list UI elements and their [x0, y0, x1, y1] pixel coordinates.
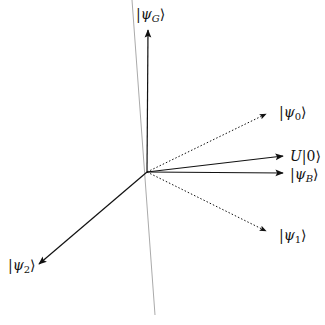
ket-symbol: ψ: [295, 166, 306, 182]
ket-close: ⟩: [160, 6, 165, 22]
vector-psi-b: [147, 172, 283, 173]
ket-symbol: ψ: [284, 227, 295, 243]
label-psi-b: |ψB⟩: [290, 167, 319, 184]
vector-psi-1: [147, 172, 266, 231]
ket-close: ⟩: [313, 166, 318, 182]
ket-close: ⟩: [301, 104, 306, 120]
label-u0: U|0⟩: [290, 149, 321, 163]
ket-symbol: ψ: [284, 104, 295, 120]
ket-subscript: G: [152, 13, 160, 24]
label-psi-g: |ψG⟩: [136, 7, 165, 24]
vector-diagram: [0, 0, 325, 325]
ket-symbol: ψ: [13, 257, 24, 273]
operator-symbol: U: [290, 148, 302, 164]
label-psi-0: |ψ0⟩: [279, 105, 307, 122]
label-psi-1: |ψ1⟩: [279, 228, 307, 245]
vector-psi-2: [39, 172, 147, 264]
ket-close: ⟩: [30, 257, 35, 273]
ket-zero: |0⟩: [302, 148, 321, 164]
vector-u0: [147, 156, 283, 172]
ket-close: ⟩: [301, 227, 306, 243]
vector-psi-g: [147, 30, 148, 172]
label-psi-2: |ψ2⟩: [8, 258, 36, 275]
reference-line: [132, 0, 155, 315]
vector-psi-0: [147, 114, 266, 172]
ket-symbol: ψ: [141, 6, 152, 22]
ket-subscript: B: [306, 173, 313, 184]
